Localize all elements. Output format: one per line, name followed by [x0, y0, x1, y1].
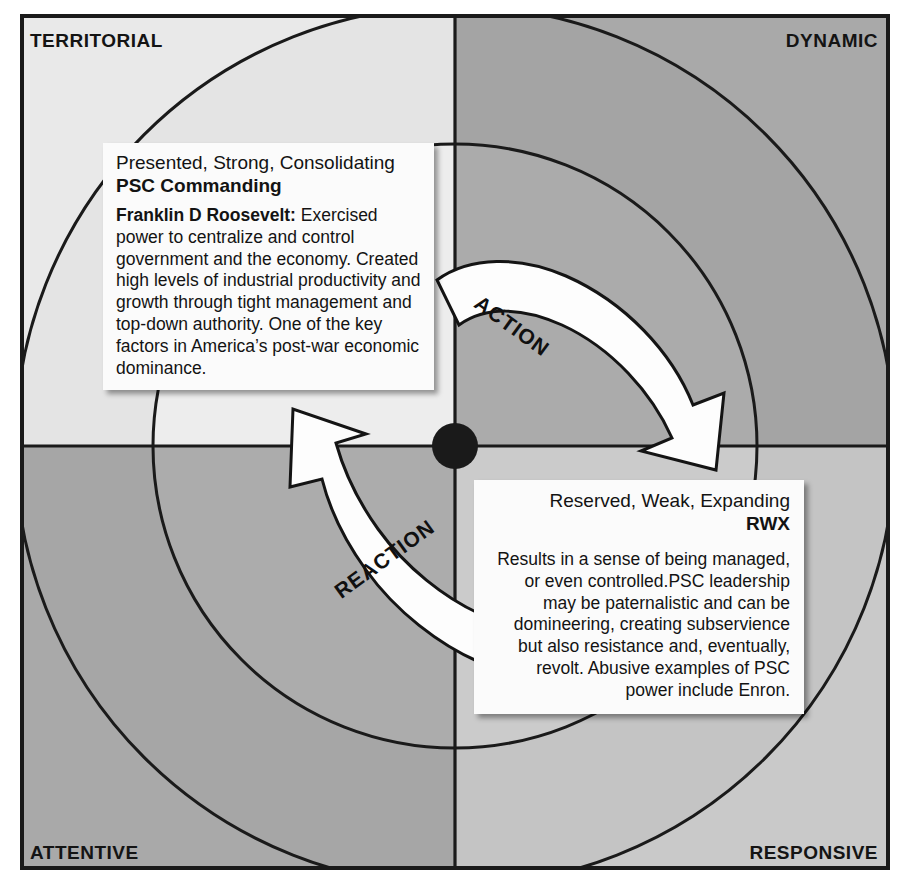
callout-rwx-line2: RWX [488, 513, 790, 536]
callout-rwx-line1: Reserved, Weak, Expanding [488, 490, 790, 513]
quadrant-label-attentive: ATTENTIVE [30, 842, 139, 864]
callout-psc-body-text: Exercised power to centralize and contro… [116, 205, 420, 379]
callout-psc-line1: Presented, Strong, Consolidating [116, 152, 422, 175]
callout-psc-commanding: Presented, Strong, Consolidating PSC Com… [103, 143, 434, 390]
callout-rwx: Reserved, Weak, Expanding RWX Results in… [474, 480, 804, 714]
callout-psc-body: Franklin D Roosevelt: Exercised power to… [116, 205, 422, 381]
quadrant-label-responsive: RESPONSIVE [749, 842, 878, 864]
quadrant-label-territorial: TERRITORIAL [30, 30, 163, 52]
callout-psc-body-lead: Franklin D Roosevelt: [116, 205, 296, 225]
quadrant-diagram-graphic [0, 0, 908, 892]
quadrant-label-dynamic: DYNAMIC [786, 30, 878, 52]
center-dot [432, 423, 478, 469]
callout-rwx-body: Results in a sense of being managed, or … [488, 549, 790, 703]
diagram-canvas: TERRITORIAL DYNAMIC ATTENTIVE RESPONSIVE… [0, 0, 908, 892]
callout-psc-line2: PSC Commanding [116, 175, 422, 198]
